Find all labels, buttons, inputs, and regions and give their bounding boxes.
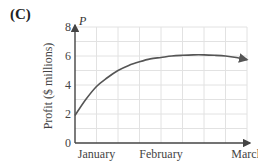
y-tick-label: 4 bbox=[65, 78, 71, 92]
y-tick-label: 2 bbox=[65, 107, 71, 121]
y-tick-labels: 02468 bbox=[65, 20, 71, 150]
y-tick-label: 8 bbox=[65, 20, 71, 34]
y-axis-variable: P bbox=[78, 14, 87, 28]
y-tick-label: 0 bbox=[65, 136, 71, 150]
y-axis-label: Profit ($ millions) bbox=[41, 43, 55, 130]
grid-lines bbox=[75, 27, 247, 143]
profit-chart: 02468 JanuaryFebruaryMarch Profit ($ mil… bbox=[0, 0, 258, 165]
axes bbox=[75, 25, 250, 143]
y-tick-label: 6 bbox=[65, 49, 71, 63]
x-tick-labels: JanuaryFebruaryMarch bbox=[78, 147, 258, 161]
x-tick-label: March bbox=[231, 147, 258, 161]
x-tick-label: January bbox=[78, 147, 115, 161]
x-tick-label: February bbox=[139, 147, 182, 161]
